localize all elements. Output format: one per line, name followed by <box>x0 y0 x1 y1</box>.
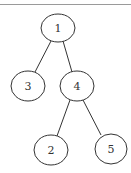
node-label: 3 <box>25 80 32 93</box>
tree-node-3: 3 <box>11 71 45 101</box>
node-label: 4 <box>74 80 81 93</box>
node-label: 2 <box>48 144 55 157</box>
edge-1-4 <box>63 41 72 72</box>
tree-node-1: 1 <box>41 14 75 42</box>
tree-node-5: 5 <box>95 134 127 164</box>
edge-4-5 <box>83 100 101 135</box>
edge-1-3 <box>35 41 51 72</box>
tree-node-4: 4 <box>60 71 94 101</box>
node-label: 1 <box>55 22 62 35</box>
edge-4-2 <box>57 100 70 136</box>
tree-node-2: 2 <box>34 135 68 165</box>
node-label: 5 <box>108 143 115 156</box>
tree-diagram: 1 3 4 2 5 <box>0 0 131 173</box>
